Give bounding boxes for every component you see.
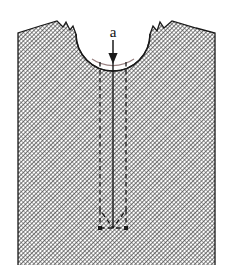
crack-depth-arrow-head <box>108 53 117 64</box>
crack-schematic-svg: a <box>0 0 229 275</box>
crack-depth-annotation: a <box>108 24 117 64</box>
crack-front-corner-right <box>124 226 128 230</box>
figure-container: a <box>0 0 229 275</box>
hatch-pattern-rect <box>0 0 229 275</box>
specimen-hatch-fill <box>0 0 229 275</box>
specimen-body <box>0 0 229 275</box>
crack-front-corner-left <box>98 226 102 230</box>
crack-depth-label: a <box>110 24 117 40</box>
